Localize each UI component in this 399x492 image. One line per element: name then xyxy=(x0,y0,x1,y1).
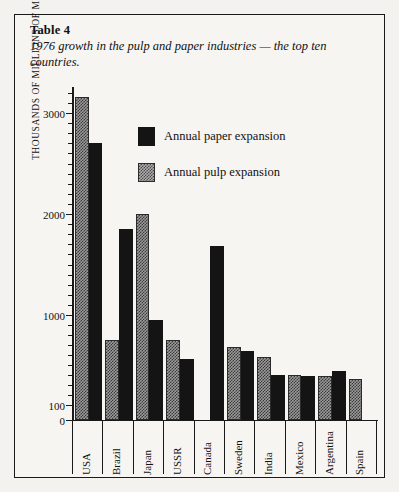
y-minor-tick xyxy=(68,234,72,235)
bar-brazil-paper xyxy=(119,229,133,420)
y-tick-label-1000: 1000 xyxy=(43,310,65,322)
y-minor-tick xyxy=(68,184,72,185)
figure-frame: Table 4 1976 growth in the pulp and pape… xyxy=(14,14,385,478)
bar-usa-paper xyxy=(89,143,103,420)
bar-mexico-paper xyxy=(301,376,315,420)
y-tick-label-3000: 3000 xyxy=(43,108,65,120)
y-minor-tick xyxy=(68,265,72,266)
y-minor-tick xyxy=(68,295,72,296)
category-label-brazil: Brazil xyxy=(110,448,122,475)
category-separator xyxy=(133,421,134,474)
category-label-spain: Spain xyxy=(353,450,365,475)
category-label-canada: Canada xyxy=(201,442,213,475)
y-tick-label-2000: 2000 xyxy=(43,209,65,221)
category-separator xyxy=(346,421,347,474)
y-minor-tick xyxy=(68,254,72,255)
caption-text: 1976 growth in the pulp and paper indust… xyxy=(30,39,370,70)
y-axis-title: THOUSANDS OF MILLIONS OF METRIC TONS xyxy=(31,0,41,160)
category-separator xyxy=(315,421,316,474)
bar-argentina-paper xyxy=(332,371,346,420)
bar-india-paper xyxy=(271,375,285,420)
bar-mexico-pulp xyxy=(288,375,302,420)
bar-ussr-paper xyxy=(180,359,194,420)
bar-spain-pulp xyxy=(349,379,363,420)
chart-legend: Annual paper expansionAnnual pulp expans… xyxy=(138,127,328,199)
legend-item-paper: Annual paper expansion xyxy=(138,127,328,146)
y-tick-label-100: 100 xyxy=(49,400,66,412)
bar-canada-paper xyxy=(210,246,224,420)
y-minor-tick xyxy=(68,174,72,175)
y-tick-3000 xyxy=(66,113,72,115)
y-minor-tick xyxy=(68,204,72,205)
y-minor-tick xyxy=(68,335,72,336)
table-label: Table 4 xyxy=(30,23,370,38)
category-separator xyxy=(72,421,73,474)
y-minor-tick xyxy=(68,385,72,386)
category-separator xyxy=(224,421,225,474)
bar-group-usa xyxy=(74,88,104,420)
bar-brazil-pulp xyxy=(105,340,119,420)
legend-swatch-pulp-icon xyxy=(138,163,155,182)
category-separator xyxy=(254,421,255,474)
bar-japan-pulp xyxy=(136,214,150,420)
bar-india-pulp xyxy=(257,357,271,420)
y-minor-tick xyxy=(68,103,72,104)
y-minor-tick xyxy=(68,365,72,366)
y-minor-tick xyxy=(68,133,72,134)
legend-item-pulp: Annual pulp expansion xyxy=(138,163,328,182)
y-tick-1000 xyxy=(66,315,72,317)
category-label-argentina: Argentina xyxy=(323,431,335,475)
category-label-mexico: Mexico xyxy=(293,441,305,475)
category-separator xyxy=(194,421,195,474)
y-minor-tick xyxy=(68,93,72,94)
legend-label: Annual pulp expansion xyxy=(164,165,280,180)
y-minor-tick xyxy=(68,123,72,124)
bar-group-brazil xyxy=(104,88,134,420)
category-separator xyxy=(163,421,164,474)
y-tick-2000 xyxy=(66,214,72,216)
y-minor-tick xyxy=(68,355,72,356)
category-separator xyxy=(376,421,377,474)
y-tick-100 xyxy=(66,405,72,407)
y-minor-tick xyxy=(68,275,72,276)
caption-block: Table 4 1976 growth in the pulp and pape… xyxy=(30,23,370,70)
bar-argentina-pulp xyxy=(318,376,332,420)
y-minor-tick xyxy=(68,395,72,396)
y-minor-tick xyxy=(68,325,72,326)
legend-swatch-paper-icon xyxy=(138,127,155,146)
category-axis-band: USABrazilJapanUSSRCanadaSwedenIndiaMexic… xyxy=(72,421,378,483)
category-label-india: India xyxy=(262,452,274,475)
category-label-ussr: USSR xyxy=(171,447,183,475)
y-minor-tick xyxy=(68,285,72,286)
y-tick-label-0: 0 xyxy=(60,415,66,427)
y-minor-tick xyxy=(68,194,72,195)
y-minor-tick xyxy=(68,244,72,245)
category-label-sweden: Sweden xyxy=(232,440,244,475)
screenshot-root: Table 4 1976 growth in the pulp and pape… xyxy=(0,0,399,492)
bar-usa-pulp xyxy=(75,97,89,419)
bar-sweden-pulp xyxy=(227,347,241,420)
legend-label: Annual paper expansion xyxy=(164,129,286,144)
category-separator xyxy=(102,421,103,474)
category-label-usa: USA xyxy=(80,453,92,475)
y-minor-tick xyxy=(68,153,72,154)
y-minor-tick xyxy=(68,164,72,165)
y-minor-tick xyxy=(68,143,72,144)
bar-group-spain xyxy=(347,88,377,420)
bar-japan-paper xyxy=(149,320,163,420)
bar-sweden-paper xyxy=(241,351,255,420)
y-minor-tick xyxy=(68,375,72,376)
y-minor-tick xyxy=(68,345,72,346)
y-minor-tick xyxy=(68,224,72,225)
category-label-japan: Japan xyxy=(141,450,153,475)
category-separator xyxy=(285,421,286,474)
bar-ussr-pulp xyxy=(166,340,180,420)
y-minor-tick xyxy=(68,305,72,306)
